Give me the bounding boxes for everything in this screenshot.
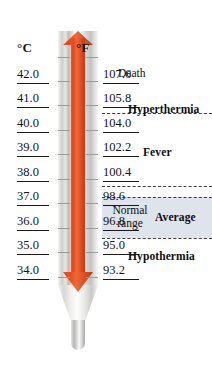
tick-mark [86,252,98,253]
zone-label-hypothermia: Hypothermia [128,250,195,262]
fahrenheit-value: 102.2 [103,141,139,157]
fahrenheit-value: 104.0 [103,117,139,133]
tick-mark [86,154,98,155]
tick-mark [86,179,98,180]
tick-mark [58,130,70,131]
tick-mark [58,57,70,58]
celsius-value: 39.0 [17,141,49,157]
tick-mark [58,154,70,155]
celsius-value: 37.0 [17,190,49,206]
celsius-value: 36.0 [17,215,49,231]
tick-mark [58,81,70,82]
tick-mark [58,203,70,204]
celsius-unit-header: °C [17,40,32,56]
thermometer-bulb-stem [71,320,85,350]
tick-mark [86,81,98,82]
celsius-value: 40.0 [17,117,49,133]
thermometer-figure: °C °F 42.0 41.0 40.0 39.0 38.0 37.0 36.0… [0,0,212,380]
celsius-value: 42.0 [17,68,49,84]
zone-separator-fever-normal [102,186,212,187]
fahrenheit-value: 93.2 [103,264,139,280]
zone-label-average: Average [155,211,196,223]
celsius-value: 35.0 [17,239,49,255]
celsius-value: 34.0 [17,264,49,280]
zone-label-fever: Fever [143,146,172,158]
tick-mark [86,203,98,204]
tick-mark [58,277,70,278]
tick-mark [58,179,70,180]
tick-mark [86,277,98,278]
zone-label-normal-range: Normal range [108,204,152,230]
fahrenheit-unit-header: °F [76,40,90,56]
tick-mark [86,228,98,229]
tick-mark [86,57,98,58]
tick-mark [58,252,70,253]
celsius-value: 38.0 [17,166,49,182]
fahrenheit-value: 100.4 [103,166,139,182]
zone-label-hyperthermia: Hyperthermia [128,103,199,115]
mercury-column [71,38,85,278]
zone-label-death: Death [118,67,145,79]
tick-mark [86,105,98,106]
tick-mark [58,228,70,229]
celsius-value: 41.0 [17,92,49,108]
tick-mark [58,105,70,106]
tick-mark [86,130,98,131]
